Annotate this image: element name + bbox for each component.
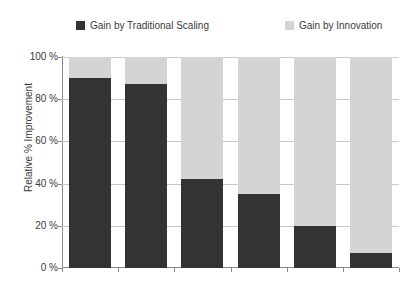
- x-axis-tick-mark: [399, 268, 400, 272]
- y-axis-tick-label: 80 %: [14, 94, 58, 104]
- bar-segment: [69, 78, 111, 268]
- x-axis-tick-mark: [118, 268, 119, 272]
- bar-1[interactable]: [69, 57, 111, 268]
- stacked-bar-chart: Gain by Traditional Scaling Gain by Inno…: [0, 0, 406, 284]
- bar-segment: [350, 57, 392, 253]
- x-axis-tick-mark: [62, 268, 63, 272]
- x-axis-tick-mark: [174, 268, 175, 272]
- legend-swatch-traditional-scaling: [76, 21, 85, 30]
- bar-segment: [350, 253, 392, 268]
- legend-item-innovation: Gain by Innovation: [285, 20, 382, 31]
- bar-3[interactable]: [181, 57, 223, 268]
- bar-2[interactable]: [125, 57, 167, 268]
- legend-swatch-innovation: [285, 21, 294, 30]
- legend-label-traditional-scaling: Gain by Traditional Scaling: [90, 20, 209, 31]
- chart-legend: Gain by Traditional Scaling Gain by Inno…: [0, 20, 406, 36]
- bar-segment: [294, 226, 336, 268]
- bar-segment: [294, 57, 336, 226]
- bar-4[interactable]: [238, 57, 280, 268]
- bar-group: [62, 57, 399, 268]
- bar-segment: [181, 179, 223, 268]
- x-axis-tick-mark: [231, 268, 232, 272]
- x-axis-tick-mark: [287, 268, 288, 272]
- bar-segment: [125, 57, 167, 84]
- bar-segment: [238, 194, 280, 268]
- y-axis-tick-label: 100 %: [14, 52, 58, 62]
- bar-segment: [125, 84, 167, 268]
- legend-item-traditional-scaling: Gain by Traditional Scaling: [76, 20, 209, 31]
- bar-segment: [181, 57, 223, 179]
- bar-5[interactable]: [294, 57, 336, 268]
- bar-6[interactable]: [350, 57, 392, 268]
- y-axis-tick-label: 60 %: [14, 136, 58, 146]
- y-axis-tick-label: 0 %: [14, 263, 58, 273]
- bar-segment: [69, 57, 111, 78]
- plot-area: [62, 57, 399, 268]
- y-axis-tick-labels: 100 %80 %60 %40 %20 %0 %: [14, 0, 58, 284]
- y-axis-tick-label: 40 %: [14, 179, 58, 189]
- bar-segment: [238, 57, 280, 194]
- legend-label-innovation: Gain by Innovation: [299, 20, 382, 31]
- y-axis-tick-label: 20 %: [14, 221, 58, 231]
- x-axis-tick-mark: [343, 268, 344, 272]
